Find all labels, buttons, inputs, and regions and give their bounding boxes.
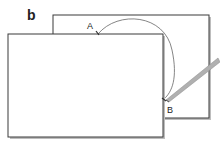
point-b-label: B [167, 105, 173, 115]
panel-label: b [27, 7, 36, 23]
front-sheet [8, 34, 163, 137]
point-a-label: A [87, 21, 93, 31]
diagram-canvas: b A B [0, 0, 220, 147]
